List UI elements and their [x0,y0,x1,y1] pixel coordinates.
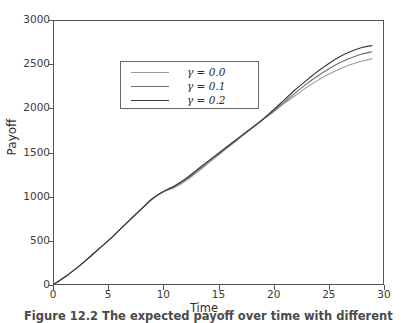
x-tick-mark [163,285,164,290]
x-tick-label: 5 [93,289,123,300]
legend-item: γ = 0.1 [121,80,258,93]
figure-caption: Figure 12.2 The expected payoff over tim… [24,309,396,323]
legend-line-2 [131,100,169,101]
legend-line-0 [131,72,169,73]
y-tick-label: 1000 [23,191,50,202]
y-tick-label: 3000 [23,14,50,25]
y-tick-label: 1500 [23,147,50,158]
x-tick-mark [53,285,54,290]
y-tick-label: 2000 [23,102,50,113]
legend-label: γ = 0.0 [187,67,225,78]
x-tick-mark [274,285,275,290]
chart-legend: γ = 0.0 γ = 0.1 γ = 0.2 [120,61,259,109]
legend-line-swatch [131,80,169,93]
legend-label: γ = 0.1 [187,81,225,92]
y-tick-label: 2500 [23,58,50,69]
x-tick-mark [219,285,220,290]
legend-label: γ = 0.2 [187,95,225,106]
x-tick-mark [108,285,109,290]
legend-item: γ = 0.2 [121,94,258,107]
legend-line-swatch [131,66,169,79]
x-tick-label: 15 [204,289,234,300]
y-axis-label: Payoff [5,107,19,167]
legend-line-swatch [131,94,169,107]
x-tick-mark [329,285,330,290]
x-tick-label: 10 [148,289,178,300]
legend-item: γ = 0.0 [121,66,258,79]
x-tick-label: 25 [314,289,344,300]
y-tick-label: 500 [30,235,50,246]
x-tick-label: 0 [38,289,68,300]
x-tick-mark [384,285,385,290]
x-tick-label: 30 [369,289,399,300]
plot-area: γ = 0.0 γ = 0.1 γ = 0.2 [53,20,384,285]
x-tick-label: 20 [259,289,289,300]
legend-line-1 [131,86,169,87]
